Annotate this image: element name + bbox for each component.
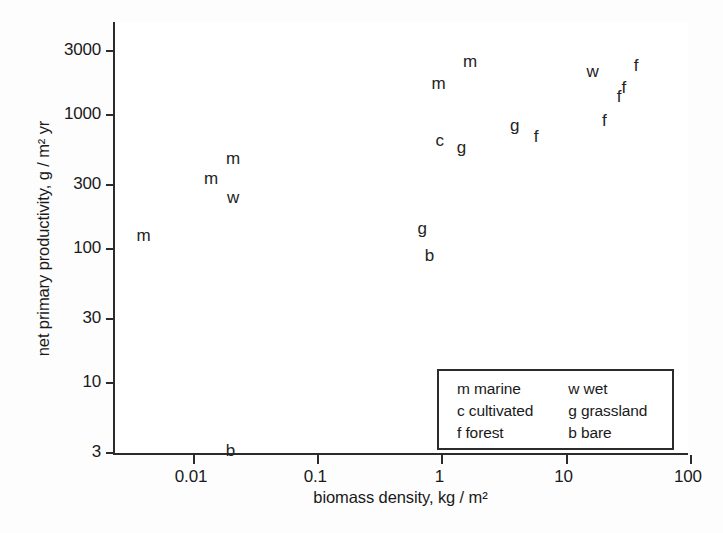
data-point-forest: f xyxy=(622,78,627,95)
legend-entry: g grassland xyxy=(568,402,672,420)
y-tick-label: 1000 xyxy=(64,104,101,124)
legend-box: m marinew wetc cultivatedg grasslandf fo… xyxy=(437,369,674,450)
legend-row: f forestb bare xyxy=(457,422,672,444)
y-tick-label: 100 xyxy=(73,238,101,258)
data-point-marine: m xyxy=(136,226,150,243)
data-point-wet: w xyxy=(227,188,239,205)
data-point-marine: m xyxy=(432,75,446,92)
chart-page: net primary productivity, g / m² yr biom… xyxy=(0,0,723,533)
y-tick-label: 30 xyxy=(82,308,101,328)
data-point-bare: b xyxy=(425,247,434,264)
data-point-marine: m xyxy=(463,52,477,69)
y-tick-mark xyxy=(106,318,115,320)
data-point-grassland: g xyxy=(457,138,466,155)
y-tick-label: 3 xyxy=(92,442,101,462)
x-tick-label: 100 xyxy=(674,467,702,487)
y-tick-mark xyxy=(106,114,115,116)
data-point-grassland: g xyxy=(510,116,519,133)
legend-row: c cultivatedg grassland xyxy=(457,400,672,422)
y-tick-label: 300 xyxy=(73,174,101,194)
data-point-forest: f xyxy=(634,57,639,74)
legend-entry: b bare xyxy=(568,424,672,442)
y-axis-title: net primary productivity, g / m² yr xyxy=(34,22,58,455)
data-point-wet: w xyxy=(586,62,598,79)
x-tick-label: 1 xyxy=(435,467,444,487)
legend-entry: c cultivated xyxy=(457,402,568,420)
y-tick-label: 3000 xyxy=(64,40,101,60)
x-axis-title: biomass density, kg / m² xyxy=(113,488,688,507)
x-tick-mark xyxy=(441,455,443,464)
x-tick-mark xyxy=(566,455,568,464)
legend-row: m marinew wet xyxy=(457,378,672,400)
data-point-forest: f xyxy=(534,128,539,145)
x-tick-label: 0.01 xyxy=(175,467,207,487)
data-point-cultivated: c xyxy=(436,131,445,148)
x-tick-mark xyxy=(690,455,692,464)
x-tick-label: 10 xyxy=(554,467,573,487)
y-axis-title-container: net primary productivity, g / m² yr xyxy=(12,22,36,455)
y-tick-mark xyxy=(106,382,115,384)
legend-entry: f forest xyxy=(457,424,568,442)
legend-entry: w wet xyxy=(568,380,672,398)
legend-entry: m marine xyxy=(457,380,568,398)
y-tick-mark xyxy=(106,452,115,454)
x-tick-label: 0.1 xyxy=(304,467,327,487)
x-tick-mark xyxy=(193,455,195,464)
data-point-grassland: g xyxy=(417,220,426,237)
y-tick-label: 10 xyxy=(82,372,101,392)
y-tick-mark xyxy=(106,184,115,186)
x-tick-mark xyxy=(317,455,319,464)
y-tick-mark xyxy=(106,248,115,250)
data-point-marine: m xyxy=(226,149,240,166)
data-point-bare: b xyxy=(226,442,235,459)
data-point-forest: f xyxy=(602,112,607,129)
y-tick-mark xyxy=(106,50,115,52)
data-point-marine: m xyxy=(204,170,218,187)
